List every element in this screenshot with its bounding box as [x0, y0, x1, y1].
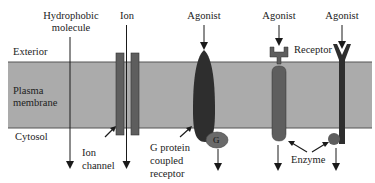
hydrophobic-molecule-label-line2: molecule — [40, 22, 102, 35]
ion-channel-label-line1: Ion — [82, 147, 96, 160]
receptor-label: Receptor — [294, 44, 332, 57]
membrane-diagram: Exterior Plasma membrane Cytosol Hydroph… — [0, 0, 375, 183]
enzyme2-downstream-arrow-icon — [332, 148, 340, 171]
plasma-membrane-label-line1: Plasma — [13, 85, 43, 98]
enzyme1-agonist-arrow-icon — [275, 25, 283, 46]
enzyme-label: Enzyme — [291, 154, 325, 167]
agonist-gpcr-label: Agonist — [182, 10, 226, 23]
ion-label: Ion — [112, 10, 142, 23]
plasma-membrane-label-line2: membrane — [13, 97, 57, 110]
agonist-enzyme1-label: Agonist — [257, 10, 301, 23]
enzyme-pointer-arrows-icon — [288, 141, 329, 152]
exterior-label: Exterior — [13, 46, 47, 59]
ion-channel-label-line2: channel — [82, 160, 115, 173]
gpcr-label-line1: G protein — [150, 142, 190, 155]
cytosol-label: Cytosol — [15, 131, 48, 144]
hydrophobic-molecule-label-line1: Hydrophobic — [40, 10, 102, 23]
gpcr-label-line3: receptor — [150, 168, 184, 181]
plasma-membrane — [8, 62, 372, 128]
gpcr-agonist-arrow-icon — [200, 25, 208, 50]
agonist-enzyme2-label: Agonist — [320, 10, 364, 23]
enzyme1-downstream-arrow-icon — [274, 145, 282, 171]
g-protein-downstream-arrow-icon — [214, 149, 222, 171]
enzyme2-agonist-arrow-icon — [338, 25, 346, 49]
g-protein-label: G — [213, 134, 220, 147]
enzyme-receptor-1-icon — [270, 47, 288, 141]
gpcr-label-line2: coupled — [150, 155, 183, 168]
